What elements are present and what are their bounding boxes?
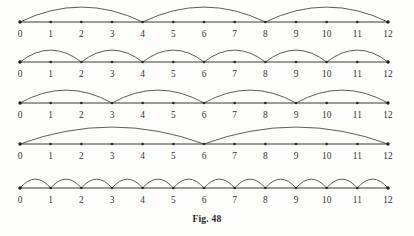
tick-label-12: 12 — [383, 195, 393, 205]
tick-dot-5 — [172, 187, 175, 190]
tick-dot-3 — [111, 187, 114, 190]
tick-dot-2 — [80, 102, 83, 105]
tick-label-6: 6 — [202, 29, 207, 39]
jump-arc-4-to-5 — [143, 179, 174, 188]
tick-label-9: 9 — [294, 29, 299, 39]
tick-dot-3 — [111, 143, 114, 146]
tick-dot-5 — [172, 102, 175, 105]
tick-label-9: 9 — [294, 69, 299, 79]
tick-dot-2 — [80, 187, 83, 190]
tick-label-12: 12 — [383, 110, 393, 120]
tick-dot-11 — [356, 21, 359, 24]
tick-dot-11 — [356, 187, 359, 190]
tick-dot-9 — [295, 21, 298, 24]
tick-label-5: 5 — [171, 69, 176, 79]
tick-label-0: 0 — [18, 110, 23, 120]
tick-label-5: 5 — [171, 195, 176, 205]
tick-label-7: 7 — [232, 195, 237, 205]
tick-label-9: 9 — [294, 151, 299, 161]
jump-arc-3-to-6 — [112, 90, 204, 103]
tick-dot-8 — [264, 21, 267, 24]
jump-arc-9-to-10 — [296, 179, 327, 188]
tick-dot-10 — [325, 143, 328, 146]
tick-label-5: 5 — [171, 110, 176, 120]
tick-dot-3 — [111, 61, 114, 64]
tick-dot-0 — [18, 142, 21, 145]
tick-label-1: 1 — [48, 195, 53, 205]
tick-dot-3 — [111, 21, 114, 24]
tick-label-2: 2 — [79, 29, 84, 39]
tick-label-1: 1 — [48, 151, 53, 161]
number-line-row-jumps-of-one: 0123456789101112 — [18, 179, 393, 205]
jump-arc-10-to-12 — [327, 50, 388, 62]
tick-dot-12 — [386, 142, 389, 145]
jump-arc-7-to-8 — [235, 179, 266, 188]
tick-label-3: 3 — [110, 151, 115, 161]
tick-dot-0 — [18, 60, 21, 63]
tick-label-6: 6 — [202, 69, 207, 79]
number-line-row-jumps-of-two: 0123456789101112 — [18, 50, 393, 79]
tick-dot-12 — [386, 60, 389, 63]
tick-label-8: 8 — [263, 110, 268, 120]
tick-dot-7 — [233, 143, 236, 146]
tick-label-4: 4 — [140, 110, 145, 120]
tick-dot-5 — [172, 61, 175, 64]
tick-dot-10 — [325, 187, 328, 190]
tick-dot-9 — [295, 61, 298, 64]
tick-label-1: 1 — [48, 110, 53, 120]
tick-label-10: 10 — [322, 29, 332, 39]
tick-dot-0 — [18, 186, 21, 189]
tick-label-4: 4 — [140, 69, 145, 79]
jump-arc-8-to-10 — [265, 50, 326, 62]
figure-48: 0123456789101112012345678910111201234567… — [0, 0, 414, 236]
jump-arc-4-to-6 — [143, 50, 204, 62]
number-line-row-jumps-of-four: 0123456789101112 — [18, 7, 393, 39]
tick-dot-5 — [172, 143, 175, 146]
tick-label-4: 4 — [140, 151, 145, 161]
tick-dot-11 — [356, 102, 359, 105]
jump-arc-0-to-3 — [20, 90, 112, 103]
tick-dot-2 — [80, 21, 83, 24]
tick-dot-6 — [203, 143, 206, 146]
tick-label-12: 12 — [383, 29, 393, 39]
tick-label-7: 7 — [232, 29, 237, 39]
jump-arc-2-to-4 — [81, 50, 142, 62]
tick-label-3: 3 — [110, 195, 115, 205]
tick-label-5: 5 — [171, 29, 176, 39]
jump-arc-11-to-12 — [357, 179, 388, 188]
jump-arc-3-to-4 — [112, 179, 143, 188]
jump-arc-2-to-3 — [81, 179, 112, 188]
tick-label-7: 7 — [232, 151, 237, 161]
tick-dot-6 — [203, 21, 206, 24]
tick-dot-7 — [233, 21, 236, 24]
figure-caption: Fig. 48 — [0, 213, 414, 224]
tick-dot-9 — [295, 187, 298, 190]
tick-label-8: 8 — [263, 151, 268, 161]
tick-dot-10 — [325, 102, 328, 105]
tick-dot-8 — [264, 102, 267, 105]
tick-label-2: 2 — [79, 195, 84, 205]
tick-dot-1 — [49, 143, 52, 146]
jump-arc-9-to-12 — [296, 90, 388, 103]
jump-arc-10-to-11 — [327, 179, 358, 188]
tick-label-8: 8 — [263, 195, 268, 205]
tick-dot-8 — [264, 61, 267, 64]
tick-dot-7 — [233, 187, 236, 190]
tick-label-4: 4 — [140, 195, 145, 205]
tick-dot-1 — [49, 102, 52, 105]
tick-label-2: 2 — [79, 110, 84, 120]
tick-dot-2 — [80, 143, 83, 146]
tick-dot-11 — [356, 61, 359, 64]
tick-dot-0 — [18, 101, 21, 104]
tick-label-10: 10 — [322, 110, 332, 120]
tick-label-11: 11 — [353, 110, 362, 120]
number-line-row-jumps-of-six: 0123456789101112 — [18, 127, 393, 161]
tick-label-9: 9 — [294, 110, 299, 120]
tick-dot-6 — [203, 187, 206, 190]
tick-label-0: 0 — [18, 151, 23, 161]
tick-dot-2 — [80, 61, 83, 64]
tick-label-0: 0 — [18, 29, 23, 39]
tick-dot-8 — [264, 187, 267, 190]
tick-label-12: 12 — [383, 69, 393, 79]
jump-arc-0-to-1 — [20, 179, 51, 188]
